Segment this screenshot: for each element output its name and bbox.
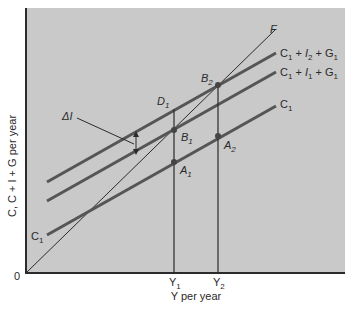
- point-a2: [215, 133, 221, 139]
- tick-y1: Y1: [169, 276, 181, 291]
- income-expenditure-diagram: F C1 + I2 + G1 C1 + I1 + G1 C1 C1 D1 B1 …: [0, 0, 354, 309]
- point-a1: [171, 159, 177, 165]
- label-delta-i: ΔI: [61, 110, 72, 122]
- tick-y2: Y2: [213, 276, 225, 291]
- origin-label: 0: [14, 270, 20, 282]
- point-b1: [171, 127, 177, 133]
- y-axis-title: C, C + I + G per year: [6, 115, 18, 217]
- point-b2: [215, 82, 221, 88]
- x-axis-title: Y per year: [171, 290, 222, 302]
